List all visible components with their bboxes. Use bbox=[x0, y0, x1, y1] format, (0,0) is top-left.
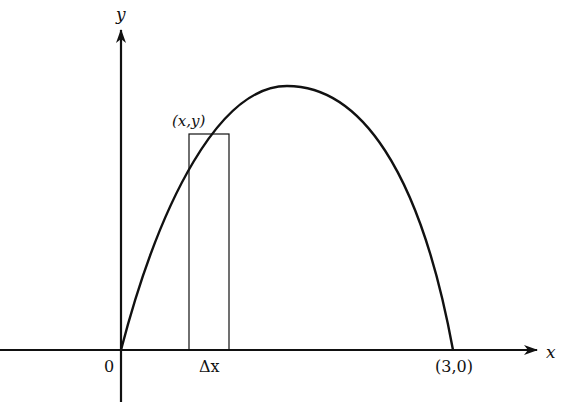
x-axis-label: x bbox=[546, 342, 556, 362]
riemann-strip bbox=[189, 134, 229, 350]
endpoint-label: (3,0) bbox=[435, 357, 473, 376]
diagram-canvas: y x 0 (x,y) Δx (3,0) bbox=[0, 0, 562, 402]
y-axis-label: y bbox=[115, 4, 126, 24]
origin-label: 0 bbox=[104, 357, 114, 376]
curve bbox=[121, 86, 453, 350]
point-label: (x,y) bbox=[172, 112, 206, 130]
delta-x-label: Δx bbox=[199, 357, 220, 376]
